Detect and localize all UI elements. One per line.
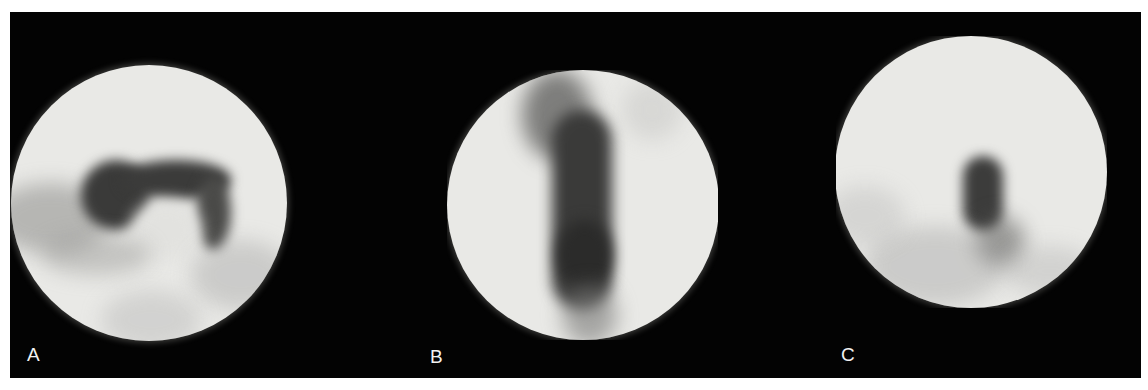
endoscopic-view-c bbox=[835, 36, 1107, 308]
panel-label-b: B bbox=[430, 347, 443, 366]
figure-panel: A B C bbox=[10, 12, 1141, 378]
panel-label-a: A bbox=[27, 345, 40, 364]
panel-label-c: C bbox=[841, 345, 855, 364]
endoscopic-view-b bbox=[447, 70, 719, 340]
endoscopic-view-a bbox=[11, 65, 287, 341]
